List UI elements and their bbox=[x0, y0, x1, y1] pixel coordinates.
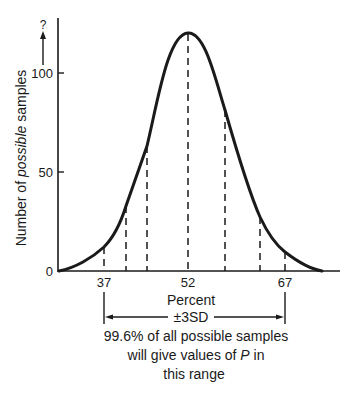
dashed-guide-lines bbox=[104, 34, 285, 271]
range-label: ±3SD bbox=[174, 309, 209, 325]
y-tick-label-50: 50 bbox=[39, 165, 53, 180]
normal-distribution-chart: 100 50 0 ? Number of possible samples 37… bbox=[0, 0, 353, 393]
range-arrow-right-icon bbox=[276, 315, 284, 320]
y-tick-label-100: 100 bbox=[31, 66, 53, 81]
x-tick-label-67: 67 bbox=[278, 275, 292, 290]
range-arrow-left-icon bbox=[105, 315, 113, 320]
y-tick-label-0: 0 bbox=[46, 264, 53, 279]
distribution-curve bbox=[59, 33, 322, 271]
x-tick-label-37: 37 bbox=[97, 275, 111, 290]
x-tick-label-52: 52 bbox=[181, 275, 195, 290]
x-axis-label: Percent bbox=[167, 292, 215, 308]
range-caption-line-2: will give values of P in bbox=[127, 347, 265, 363]
range-caption-line-3: this range bbox=[163, 366, 225, 382]
off-scale-question-mark: ? bbox=[40, 18, 47, 32]
y-axis-label: Number of possible samples bbox=[13, 70, 29, 247]
off-scale-arrow-icon bbox=[40, 31, 46, 65]
range-caption-line-1: 99.6% of all possible samples bbox=[104, 328, 288, 344]
